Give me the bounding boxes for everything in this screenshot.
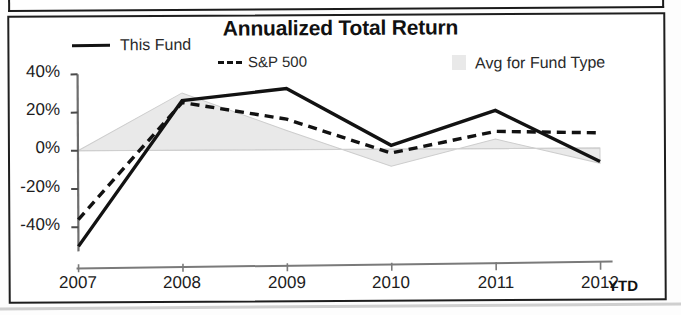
plot-area <box>0 0 681 315</box>
y-axis-label: 40% <box>0 62 60 82</box>
x-axis-ytd-suffix: YTD <box>608 277 638 294</box>
x-axis-label: 2011 <box>461 273 531 293</box>
x-axis-label: 2010 <box>356 273 426 293</box>
this-fund-line-swatch <box>72 44 110 47</box>
chart-page: Annualized Total Return This Fund S&P 50… <box>0 0 681 315</box>
chart-title: Annualized Total Return <box>0 14 681 42</box>
legend-item-avg-fund-type: Avg for Fund Type <box>475 54 605 73</box>
y-axis-label: 20% <box>0 100 60 120</box>
y-axis-line <box>78 74 79 251</box>
avg-fund-type-area-swatch <box>452 55 466 70</box>
x-axis-label: 2008 <box>147 273 217 293</box>
legend-item-sp500: S&P 500 <box>248 53 307 70</box>
x-axis-line <box>77 262 613 269</box>
y-axis-label: -20% <box>0 176 60 196</box>
annualized-total-return-chart <box>0 0 681 315</box>
x-axis-label: 2009 <box>252 273 322 293</box>
y-axis-label: -40% <box>0 215 60 235</box>
avg-fund-type-area <box>78 91 600 168</box>
x-axis-label: 2007 <box>43 273 113 293</box>
y-axis-label: 0% <box>0 138 60 158</box>
sp500-dash-swatch <box>218 61 242 64</box>
legend-item-this-fund: This Fund <box>120 36 191 54</box>
